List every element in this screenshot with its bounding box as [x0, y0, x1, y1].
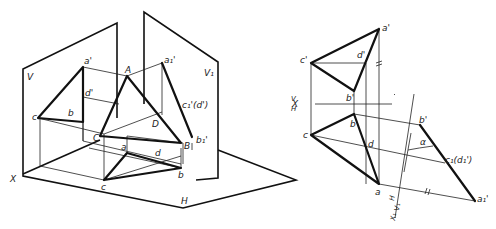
- label-a1-prime-r: a₁': [477, 194, 489, 204]
- projection-diagram: V V₁ H X a' a₁' A d' c₁'(d') c b C D a d…: [0, 0, 496, 229]
- label-D: D: [152, 119, 159, 129]
- label-d-prime: d': [85, 88, 93, 98]
- label-a-h: a: [121, 142, 127, 152]
- h-plane-outline: [23, 140, 100, 174]
- label-c1-d-prime: c₁'(d'): [182, 100, 208, 110]
- label-c-prime-r: c': [300, 55, 307, 65]
- label-v-plane: V: [27, 72, 34, 82]
- label-a1-prime: a₁': [164, 55, 176, 65]
- label-h-r: H: [291, 105, 297, 113]
- triangle-h-projection-right: [311, 114, 379, 184]
- label-d-prime-r: d': [357, 50, 365, 60]
- label-v1-plane: V₁: [204, 68, 214, 78]
- triangle-spatial-abc: [100, 76, 181, 143]
- projection-lines-right: [311, 29, 475, 201]
- label-a-prime-r: a': [382, 23, 390, 33]
- label-b1-prime-r: b': [419, 115, 427, 125]
- right-orthographic-view: a' c' d' b' X V H c b d a b' c₁(d₁') a₁'…: [291, 23, 489, 222]
- label-b-r: b: [350, 119, 356, 129]
- label-c1-d1-r: c₁(d₁'): [445, 155, 472, 165]
- label-B: B: [184, 141, 190, 151]
- label-b-h: b: [178, 170, 184, 180]
- x1-axis-h-v1: [394, 94, 395, 95]
- label-x1: X₁: [389, 212, 398, 222]
- label-A: A: [124, 65, 131, 75]
- label-c-v: c: [32, 112, 37, 122]
- label-b1-prime: b₁': [196, 135, 208, 145]
- label-h-x1: H: [388, 194, 397, 201]
- label-a-r: a: [375, 187, 381, 197]
- label-x-axis: X: [9, 174, 17, 184]
- label-c-r: c: [303, 130, 308, 140]
- label-C: C: [93, 133, 100, 143]
- label-c-h: c: [101, 182, 106, 192]
- triangle-v-projection: [38, 67, 83, 122]
- triangle-v-projection-right: [311, 29, 379, 91]
- label-h-plane: H: [181, 196, 188, 206]
- label-b-prime-r: b': [346, 93, 354, 103]
- left-pictorial-view: V V₁ H X a' a₁' A d' c₁'(d') c b C D a d…: [9, 12, 296, 208]
- label-d-r: d: [368, 139, 374, 149]
- label-alpha: α: [420, 137, 426, 147]
- label-d-h: d: [155, 148, 161, 158]
- label-b-v: b: [68, 108, 74, 118]
- label-v1-x1: V₁: [393, 202, 402, 211]
- label-a-prime: a': [84, 56, 92, 66]
- triangle-h-projection: [104, 153, 181, 180]
